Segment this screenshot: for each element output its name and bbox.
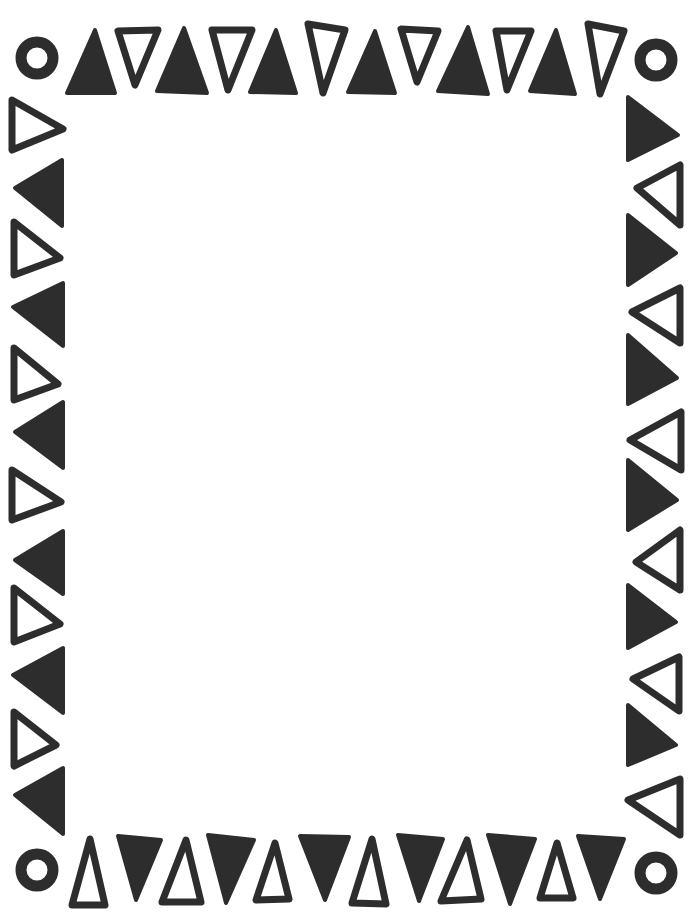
filled-triangle-icon — [15, 531, 63, 594]
outline-triangle-icon — [632, 288, 680, 343]
outline-triangle-icon — [496, 31, 531, 90]
outline-triangle-icon — [256, 843, 289, 900]
outline-triangle-icon — [14, 588, 60, 642]
filled-triangle-icon — [398, 835, 443, 901]
filled-triangle-icon — [13, 283, 63, 346]
outline-triangle-icon — [588, 24, 624, 94]
filled-triangle-icon — [157, 28, 207, 93]
filled-triangle-icon — [578, 836, 624, 899]
filled-triangle-icon — [348, 31, 395, 93]
filled-triangle-icon — [250, 30, 296, 93]
filled-triangle-icon — [300, 836, 349, 900]
filled-triangle-icon — [628, 215, 676, 285]
filled-triangle-icon — [13, 648, 63, 713]
left-border-column — [12, 100, 63, 834]
outline-triangle-icon — [628, 779, 680, 835]
filled-triangle-icon — [67, 30, 115, 93]
outline-triangle-icon — [14, 348, 58, 400]
filled-triangle-icon — [118, 836, 161, 900]
outline-triangle-icon — [352, 839, 386, 904]
outline-triangle-icon — [212, 30, 252, 90]
filled-triangle-icon — [488, 835, 535, 904]
decorative-border — [0, 0, 697, 914]
filled-triangle-icon — [628, 585, 676, 648]
filled-triangle-icon — [628, 335, 677, 404]
right-border-column — [628, 97, 681, 835]
outline-triangle-icon — [540, 843, 573, 898]
outline-triangle-icon — [637, 165, 680, 225]
outline-triangle-icon — [636, 530, 680, 590]
filled-triangle-icon — [628, 460, 677, 530]
outline-triangle-icon — [12, 100, 63, 150]
outline-triangle-icon — [72, 839, 105, 905]
filled-triangle-icon — [208, 835, 254, 903]
corner-rings — [21, 42, 672, 889]
outline-triangle-icon — [14, 222, 60, 275]
outline-triangle-icon — [118, 30, 158, 85]
outline-triangle-icon — [162, 840, 201, 902]
filled-triangle-icon — [530, 30, 575, 94]
ring-top-left-icon — [21, 42, 53, 74]
ring-bottom-left-icon — [21, 854, 53, 886]
outline-triangle-icon — [12, 470, 61, 520]
filled-triangle-icon — [438, 27, 488, 94]
filled-triangle-icon — [15, 402, 63, 468]
outline-triangle-icon — [633, 657, 679, 711]
outline-triangle-icon — [14, 712, 56, 766]
outline-triangle-icon — [308, 24, 345, 93]
filled-triangle-icon — [628, 97, 678, 160]
filled-triangle-icon — [15, 160, 62, 226]
outline-triangle-icon — [401, 29, 438, 82]
ring-bottom-right-icon — [640, 857, 672, 889]
filled-triangle-icon — [15, 768, 63, 834]
outline-triangle-icon — [630, 412, 681, 470]
outline-triangle-icon — [441, 840, 481, 901]
filled-triangle-icon — [628, 705, 676, 765]
top-border-row — [67, 24, 624, 94]
bottom-border-row — [72, 835, 624, 905]
ring-top-right-icon — [640, 44, 672, 76]
